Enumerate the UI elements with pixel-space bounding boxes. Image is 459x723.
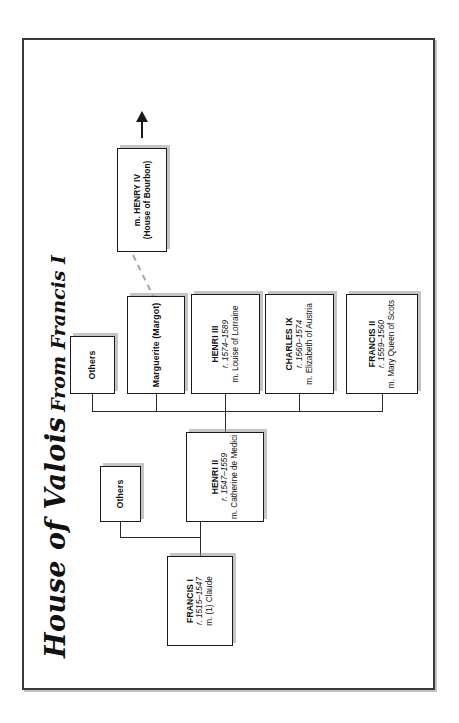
node-name: HENRI III <box>210 325 220 362</box>
node-reign: r. 1559–1560 <box>377 320 387 368</box>
page-frame: House of ValoisFrom Francis I <box>22 38 435 690</box>
node-spouse: m. Elizabeth of Austria <box>304 303 314 384</box>
node-reign: r. 1547–1559 <box>220 453 230 501</box>
page-title: House of ValoisFrom Francis I <box>42 255 69 658</box>
title-main: House of Valois <box>40 417 71 658</box>
node-name: m. HENRY IV <box>131 174 141 226</box>
connector-francis-i-stem <box>200 538 201 556</box>
node-name: FRANCIS II <box>366 321 376 367</box>
family-tree-diagram: House of ValoisFrom Francis I <box>34 44 424 684</box>
continuation-arrow-icon <box>136 108 148 138</box>
node-reign: r. 1560–1574 <box>294 320 304 368</box>
node-henry-iv[interactable]: m. HENRY IV (House of Bourbon) <box>117 148 167 252</box>
connector-to-francis-ii <box>382 394 383 412</box>
node-name: CHARLES IX <box>284 317 294 370</box>
node-spouse: m. Louise of Lorraine <box>230 306 240 383</box>
connector-henri-ii-stem <box>225 412 226 432</box>
connector-to-charles-ix <box>299 394 300 412</box>
node-house: (House of Bourbon) <box>142 161 152 240</box>
node-name: Others <box>87 351 98 380</box>
node-marguerite[interactable]: Marguerite (Margot) <box>127 296 185 394</box>
node-reign: r. 1574–1589 <box>220 320 230 368</box>
connector-francis-i-split <box>120 537 201 538</box>
connector-marriage-dashed <box>132 255 156 301</box>
node-others-gen1[interactable]: Others <box>100 466 141 522</box>
connector-to-others-gen1 <box>120 522 121 538</box>
node-name: Others <box>115 480 126 509</box>
connector-to-henri-iii <box>225 394 226 412</box>
chart-rotator: House of ValoisFrom Francis I <box>34 44 424 684</box>
node-henri-ii[interactable]: HENRI II r. 1547–1559 m. Catherine de Me… <box>186 432 264 522</box>
connector-to-marguerite <box>156 394 157 412</box>
node-name: FRANCIS I <box>184 579 194 623</box>
node-reign: r. 1515–1547 <box>195 577 205 625</box>
connector-henri-ii-trunk <box>92 411 382 412</box>
node-spouse: m. (1) Claude <box>205 576 215 626</box>
node-spouse: m. Catherine de Medici <box>230 435 240 519</box>
node-name: Marguerite (Margot) <box>150 303 161 388</box>
arrow-head <box>136 111 148 122</box>
title-subtitle: From Francis I <box>47 255 69 412</box>
node-francis-ii[interactable]: FRANCIS II r. 1559–1560 m. Mary Queen of… <box>346 294 418 394</box>
node-francis-i[interactable]: FRANCIS I r. 1515–1547 m. (1) Claude <box>167 556 233 646</box>
connector-to-henri-ii <box>200 522 201 538</box>
connector-to-others-gen3 <box>92 394 93 412</box>
node-henri-iii[interactable]: HENRI III r. 1574–1589 m. Louise of Lorr… <box>191 294 260 394</box>
node-others-gen3[interactable]: Others <box>70 336 115 394</box>
node-spouse: m. Mary Queen of Scots <box>387 300 397 388</box>
node-charles-ix[interactable]: CHARLES IX r. 1560–1574 m. Elizabeth of … <box>265 294 334 394</box>
node-name: HENRI II <box>209 460 219 495</box>
